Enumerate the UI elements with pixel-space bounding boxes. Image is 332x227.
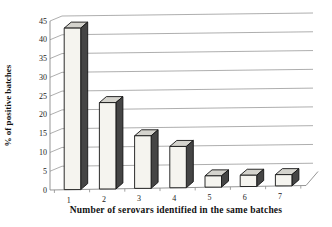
- y-tick-label: 45: [39, 17, 47, 26]
- y-tick-label: 35: [39, 54, 47, 63]
- x-category-label-1: 1: [67, 196, 71, 205]
- bar-side-face-2: [116, 97, 123, 189]
- x-category-label-3: 3: [137, 194, 141, 203]
- x-axis-title: Number of serovars identified in the sam…: [26, 205, 326, 215]
- y-tick-label: 0: [43, 186, 47, 195]
- y-tick-label: 5: [43, 167, 47, 176]
- y-tick-label: 25: [39, 92, 47, 101]
- bar-side-face-1: [81, 22, 88, 189]
- bar-front-3: [135, 136, 152, 189]
- bar-side-face-4: [186, 140, 193, 187]
- y-gridline: [50, 32, 313, 40]
- bar-front-7: [275, 175, 292, 186]
- x-category-label-5: 5: [208, 193, 212, 202]
- y-tick-label: 10: [39, 148, 47, 157]
- bar-chart-figure: 0510152025303540451234567 % of positive …: [0, 0, 332, 227]
- y-gridline: [50, 107, 313, 115]
- bar-front-5: [205, 176, 222, 187]
- chart-svg: 0510152025303540451234567: [0, 0, 332, 227]
- y-gridline: [50, 13, 313, 21]
- y-tick-label: 40: [39, 35, 47, 44]
- x-category-label-7: 7: [278, 192, 282, 201]
- x-category-label-2: 2: [102, 195, 106, 204]
- y-axis-title: % of positive batches: [2, 21, 15, 191]
- y-gridline: [50, 126, 313, 134]
- y-gridline: [50, 51, 313, 59]
- bar-front-2: [99, 103, 116, 189]
- bar-front-1: [64, 28, 81, 189]
- x-category-label-6: 6: [243, 193, 247, 202]
- y-tick-label: 20: [39, 110, 47, 119]
- y-tick-label: 30: [39, 73, 47, 82]
- bar-front-6: [240, 175, 257, 186]
- y-tick-label: 15: [39, 129, 47, 138]
- y-gridline: [50, 69, 313, 77]
- x-category-label-4: 4: [172, 194, 176, 203]
- y-gridline: [50, 88, 313, 96]
- bar-side-face-3: [151, 130, 158, 189]
- bar-front-4: [170, 146, 187, 187]
